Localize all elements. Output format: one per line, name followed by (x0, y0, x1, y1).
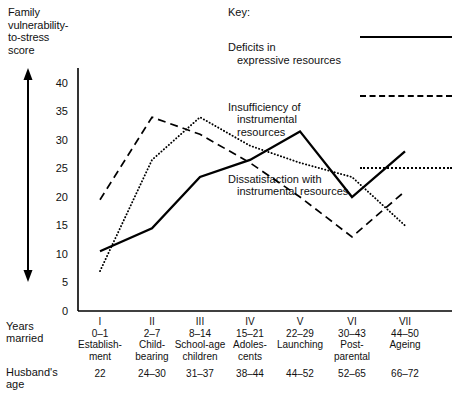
series-line-dotted (100, 117, 405, 271)
row-label-years-married: Years married (6, 320, 43, 345)
y-tick-label-15: 15 (44, 220, 68, 231)
y-tick-label-10: 10 (44, 249, 68, 260)
row-label-husband-age: Husband's age (6, 366, 58, 391)
husband-age-cell-VII: 66–72 (373, 368, 437, 380)
category-cell-VII: VII 44–50 Ageing (373, 316, 437, 351)
y-tick-label-5: 5 (44, 277, 68, 288)
y-tick-label-35: 35 (44, 106, 68, 117)
y-tick-label-40: 40 (44, 78, 68, 89)
y-tick-label-0: 0 (44, 306, 68, 317)
series-line-dashed (100, 117, 405, 237)
series-line-solid (100, 131, 405, 251)
series-group (100, 117, 405, 271)
chart-page: Family vulnerability- to-stress score Ke… (0, 0, 459, 393)
y-range-arrow (24, 68, 33, 282)
y-tick-label-30: 30 (44, 135, 68, 146)
y-tick-label-20: 20 (44, 192, 68, 203)
y-tick-label-25: 25 (44, 163, 68, 174)
